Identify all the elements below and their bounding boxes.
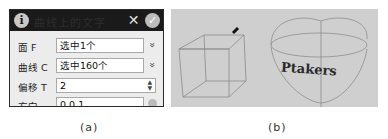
curve-selector[interactable]: 选中160个 [56,58,144,73]
chevron-down-icon[interactable]: » [146,42,158,48]
direction-pick-icon[interactable] [148,99,157,107]
face-selector[interactable]: 选中1个 [56,38,144,53]
caption-a: (a) [80,121,98,134]
3d-viewport: Ptakers [171,9,378,107]
direction-input[interactable]: 0,0,1 [56,97,144,107]
curved-text: Ptakers [281,60,338,79]
chevron-down-icon[interactable]: » [146,62,158,68]
caption-b: (b) [268,121,287,134]
dialog-title: 曲线上的文字 [34,14,106,30]
dialog-titlebar: i 曲线上的文字 ✕ ✓ [10,10,163,31]
direction-label: 方向 [18,99,38,107]
spinner-arrows-icon[interactable]: ▲▼ [147,79,152,91]
curve-label: 曲线 C [18,60,48,74]
face-label: 面 F [18,40,36,54]
offset-spinner[interactable]: 2 ▲▼ [56,78,156,93]
wireframe-cube [179,35,246,97]
curve-row: 曲线 C 选中160个 » [10,57,163,75]
confirm-icon[interactable]: ✓ [145,13,160,28]
offset-row: 偏移 T 2 ▲▼ [10,77,163,95]
viewport-graphics: Ptakers [171,9,378,107]
text-on-curve-dialog: i 曲线上的文字 ✕ ✓ 面 F 选中1个 » 曲线 C 选中160个 » 偏移… [9,9,164,107]
info-icon[interactable]: i [14,13,29,28]
direction-row: 方向 0,0,1 [10,96,163,107]
offset-value: 2 [60,80,66,91]
face-row: 面 F 选中1个 » [10,37,163,55]
close-icon[interactable]: ✕ [126,13,141,28]
pointer-marker [233,28,238,33]
offset-label: 偏移 T [18,80,47,94]
